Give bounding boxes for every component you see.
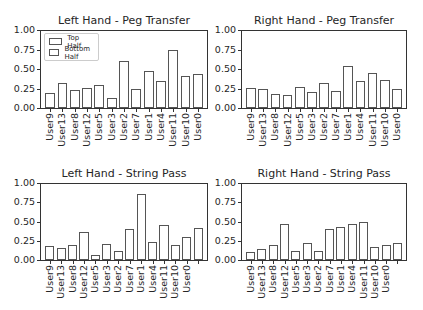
y-tick-mark xyxy=(37,202,40,203)
bar-user10 xyxy=(380,80,390,108)
y-tick-label: 0.50 xyxy=(1,216,35,227)
bar-user7 xyxy=(131,89,141,108)
y-tick-label: 0.75 xyxy=(1,44,35,55)
x-tick-label: User12 xyxy=(81,113,92,147)
y-tick-label: 0.50 xyxy=(202,216,236,227)
legend-label: Bottom Half xyxy=(64,45,93,61)
x-tick-label: User4 xyxy=(155,113,166,141)
bar-user10 xyxy=(370,247,379,260)
x-tick-mark xyxy=(364,261,365,264)
x-tick-label: User9 xyxy=(245,265,256,293)
x-tick-mark xyxy=(73,261,74,264)
x-tick-mark xyxy=(373,109,374,112)
x-tick-mark xyxy=(164,261,165,264)
y-tick-label: 0.00 xyxy=(1,102,35,113)
chart-title: Right Hand - Peg Transfer xyxy=(241,14,407,27)
bar-user7 xyxy=(125,229,134,260)
x-tick-mark xyxy=(87,109,88,112)
x-tick-mark xyxy=(397,261,398,264)
legend: Top HalfBottom Half xyxy=(44,33,99,61)
bar-unlabeled-13 xyxy=(393,243,402,260)
x-tick-label: User12 xyxy=(282,113,293,147)
x-tick-label: User9 xyxy=(245,113,256,141)
y-tick-label: 0.25 xyxy=(1,83,35,94)
bar-user11 xyxy=(159,225,168,260)
y-tick-label: 0.75 xyxy=(202,44,236,55)
x-tick-mark xyxy=(175,261,176,264)
x-tick-label: User8 xyxy=(67,265,78,293)
x-tick-label: User8 xyxy=(267,265,278,293)
y-tick-mark xyxy=(37,69,40,70)
x-tick-mark xyxy=(251,261,252,264)
y-tick-label: 1.00 xyxy=(202,177,236,188)
x-tick-label: User8 xyxy=(69,113,80,141)
x-tick-mark xyxy=(285,261,286,264)
x-tick-mark xyxy=(330,261,331,264)
y-tick-mark xyxy=(238,69,241,70)
x-tick-label: User0 xyxy=(380,265,391,293)
y-tick-label: 0.00 xyxy=(1,254,35,265)
x-tick-mark xyxy=(307,261,308,264)
x-tick-label: User3 xyxy=(101,265,112,293)
bar-user3 xyxy=(102,244,111,260)
y-tick-mark xyxy=(37,89,40,90)
bar-user13 xyxy=(57,248,66,260)
x-tick-label: User13 xyxy=(257,113,268,147)
x-tick-mark xyxy=(112,109,113,112)
x-tick-label: User2 xyxy=(318,113,329,141)
bar-user9 xyxy=(45,93,55,108)
bar-user2 xyxy=(119,61,129,108)
chart-title: Left Hand - Peg Transfer xyxy=(40,14,208,27)
x-tick-mark xyxy=(130,261,131,264)
y-tick-mark xyxy=(37,260,40,261)
bar-user5 xyxy=(291,251,300,260)
x-tick-mark xyxy=(318,261,319,264)
x-tick-label: User5 xyxy=(294,113,305,141)
x-tick-label: User2 xyxy=(312,265,323,293)
bar-user8 xyxy=(269,245,278,260)
bar-user8 xyxy=(271,94,281,108)
x-tick-mark xyxy=(153,261,154,264)
y-tick-label: 0.00 xyxy=(202,102,236,113)
x-tick-label: User2 xyxy=(112,265,123,293)
bar-user10 xyxy=(181,76,191,108)
bar-user0 xyxy=(182,237,191,260)
y-tick-mark xyxy=(37,50,40,51)
x-tick-mark xyxy=(141,261,142,264)
x-tick-label: User10 xyxy=(369,265,380,299)
x-tick-mark xyxy=(198,109,199,112)
bar-user1 xyxy=(144,71,154,108)
bar-user9 xyxy=(45,246,54,260)
bar-user8 xyxy=(70,90,80,108)
x-tick-label: User13 xyxy=(55,265,66,299)
x-tick-mark xyxy=(296,261,297,264)
x-tick-mark xyxy=(62,109,63,112)
x-tick-label: User1 xyxy=(135,265,146,293)
x-tick-mark xyxy=(288,109,289,112)
x-tick-mark xyxy=(397,109,398,112)
x-tick-label: User9 xyxy=(44,113,55,141)
bar-user5 xyxy=(91,255,100,260)
y-tick-mark xyxy=(238,241,241,242)
x-tick-mark xyxy=(149,109,150,112)
y-tick-label: 0.75 xyxy=(1,196,35,207)
y-tick-mark xyxy=(238,30,241,31)
x-tick-mark xyxy=(95,261,96,264)
x-tick-label: User7 xyxy=(124,265,135,293)
y-tick-label: 0.25 xyxy=(202,235,236,246)
y-tick-mark xyxy=(238,183,241,184)
x-tick-label: User12 xyxy=(78,265,89,299)
x-tick-label: User7 xyxy=(130,113,141,141)
x-tick-mark xyxy=(262,261,263,264)
x-tick-label: User5 xyxy=(89,265,100,293)
bar-user2 xyxy=(314,251,323,260)
legend-swatch-icon xyxy=(49,38,62,45)
x-tick-mark xyxy=(84,261,85,264)
bar-user13 xyxy=(257,249,266,260)
x-tick-mark xyxy=(360,109,361,112)
x-tick-mark xyxy=(161,109,162,112)
bar-user13 xyxy=(58,83,68,108)
y-tick-label: 1.00 xyxy=(1,24,35,35)
x-tick-mark xyxy=(186,109,187,112)
legend-item: Bottom Half xyxy=(49,47,94,58)
